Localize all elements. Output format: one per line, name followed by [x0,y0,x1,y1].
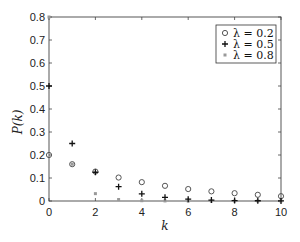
plus-marker [116,184,122,190]
circle-marker [139,180,144,185]
circle-marker [186,186,191,191]
y-tick-label: 0.5 [30,80,45,92]
circle-marker [162,183,167,188]
legend: λ = 0.2 λ = 0.5 λ = 0.8 [216,25,276,63]
y-tick-label: 0.3 [30,126,45,138]
legend-item-2: λ = 0.8 [233,49,274,62]
chart: 00.10.20.30.40.50.60.70.8 0246810 k P(k)… [0,0,300,242]
y-tick-label: 0.2 [30,149,45,161]
y-tick-label: 0.4 [30,103,45,115]
square-marker [94,192,97,195]
square-marker [224,54,227,57]
y-tick-label: 0.1 [30,172,45,184]
square-marker [140,199,143,202]
square-marker [48,16,51,19]
circle-marker [255,192,260,197]
x-tick-label: 4 [139,206,145,218]
y-tick-label: 0.8 [30,11,45,23]
plus-marker [162,194,168,200]
plus-marker [46,83,52,89]
square-marker [117,198,120,201]
y-tick-label: 0.7 [30,34,45,46]
x-tick-label: 6 [185,206,191,218]
circle-marker [232,191,237,196]
x-axis-label: k [161,219,168,233]
plus-marker [139,191,145,197]
y-tick-label: 0.6 [30,57,45,69]
plus-marker [255,198,261,204]
x-tick-label: 10 [275,206,287,218]
plus-marker [278,198,284,204]
plus-marker [208,197,214,203]
x-tick-label: 2 [92,206,98,218]
x-tick-label: 8 [232,206,238,218]
plus-marker [232,198,238,204]
x-tick-label: 0 [46,206,52,218]
square-marker [71,163,74,166]
circle-marker [116,175,121,180]
circle-marker [209,189,214,194]
y-tick-label: 0 [39,195,45,207]
plus-marker [69,141,75,147]
y-axis-label: P(k) [11,109,25,135]
